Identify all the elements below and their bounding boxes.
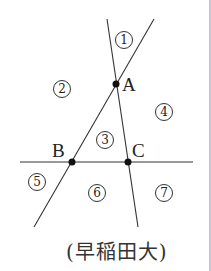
region-label-1: 1 bbox=[115, 31, 133, 49]
point-a bbox=[113, 81, 120, 88]
point-b bbox=[69, 159, 76, 166]
line-AC bbox=[107, 19, 138, 227]
point-label-c: C bbox=[132, 141, 145, 160]
point-label-b: B bbox=[52, 141, 65, 160]
region-label-2: 2 bbox=[53, 80, 71, 98]
region-label-6: 6 bbox=[88, 184, 106, 202]
point-c bbox=[125, 159, 132, 166]
region-label-4: 4 bbox=[155, 103, 173, 121]
region-label-7: 7 bbox=[155, 184, 173, 202]
point-label-a: A bbox=[122, 75, 136, 94]
region-label-5: 5 bbox=[28, 173, 46, 191]
diagram: ABC1234567 (早稲田大) bbox=[0, 0, 211, 271]
page-edge bbox=[209, 0, 211, 271]
source-caption: (早稲田大) bbox=[66, 236, 168, 265]
region-label-3: 3 bbox=[96, 131, 114, 149]
